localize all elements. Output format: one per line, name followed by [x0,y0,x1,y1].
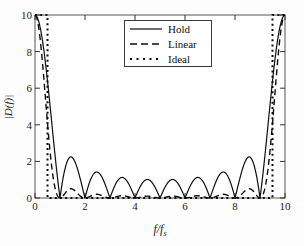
legend-item-hold: Hold [125,21,211,36]
ytick-label-8: 8 [16,46,32,58]
xtick-label-10: 10 [280,200,291,212]
legend-label-ideal: Ideal [163,53,190,65]
ytick-label-4: 4 [16,119,32,131]
xtick-label-4: 4 [132,200,138,212]
legend-item-linear: Linear [125,36,211,51]
legend-label-hold: Hold [163,23,190,35]
legend-item-ideal: Ideal [125,51,211,66]
figure-container: 0 2 4 6 8 10 0 2 4 6 8 10 f/fs |D(f)| Ho… [0,0,304,246]
x-axis-label-subscript: s [163,229,166,238]
legend-swatch-dashed [129,39,163,49]
xtick-label-0: 0 [32,200,38,212]
xtick-label-8: 8 [232,200,238,212]
legend-label-linear: Linear [163,38,197,50]
xtick-label-2: 2 [82,200,88,212]
x-axis-label-text: f/f [153,222,163,236]
ytick-label-6: 6 [16,82,32,94]
ytick-label-10: 10 [12,9,32,21]
legend-swatch-dotted [129,54,163,64]
y-axis-label: |D(f)| [2,95,14,119]
ytick-label-2: 2 [16,155,32,167]
xtick-label-6: 6 [182,200,188,212]
legend-swatch-solid [129,24,163,34]
legend-box: Hold Linear Ideal [124,20,212,67]
ytick-label-0: 0 [16,192,32,204]
x-axis-label: f/fs [153,222,166,238]
